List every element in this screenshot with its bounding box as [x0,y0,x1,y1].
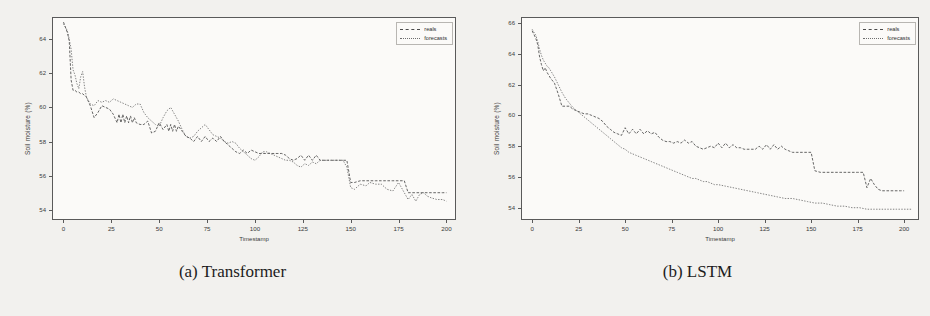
y-tick-mark [518,115,521,116]
x-tick-mark [351,220,352,223]
x-tick-mark [579,220,580,223]
x-tick-mark [765,220,766,223]
plot-area-transformer: Soil moisture (%) Timestamp 545658606264… [0,0,465,255]
x-tick-label: 175 [386,225,412,232]
x-tick-label: 0 [50,225,76,232]
legend-item-reals: reals [863,26,910,32]
y-tick-label: 62 [495,82,515,88]
series-line-reals [63,22,446,193]
y-tick-mark [518,208,521,209]
y-tick-label: 66 [495,20,515,26]
x-tick-label: 100 [705,225,731,232]
y-tick-mark [49,210,52,211]
x-tick-label: 200 [433,225,459,232]
x-tick-mark [207,220,208,223]
chart-curves-transformer [0,0,465,255]
x-tick-mark [159,220,160,223]
x-axis-label-transformer: Timestamp [52,236,456,242]
panel-transformer: Soil moisture (%) Timestamp 545658606264… [0,0,465,316]
legend-line-reals-icon [400,29,420,30]
panel-lstm: Soil moisture (%) Timestamp 545658606264… [465,0,930,316]
x-tick-label: 75 [659,225,685,232]
x-tick-label: 125 [290,225,316,232]
x-tick-label: 200 [891,225,917,232]
y-tick-label: 62 [26,70,46,76]
y-tick-mark [518,146,521,147]
x-tick-label: 150 [798,225,824,232]
legend-label-reals: reals [424,26,436,32]
x-tick-mark [718,220,719,223]
series-line-forecasts [532,29,911,209]
y-tick-label: 56 [495,174,515,180]
legend-label-reals: reals [887,26,899,32]
x-tick-mark [532,220,533,223]
x-tick-label: 25 [98,225,124,232]
x-tick-mark [446,220,447,223]
y-tick-label: 64 [26,36,46,42]
x-tick-label: 25 [566,225,592,232]
y-tick-mark [518,177,521,178]
legend-line-forecasts-icon [400,38,420,39]
plot-area-lstm: Soil moisture (%) Timestamp 545658606264… [465,0,930,255]
x-tick-mark [303,220,304,223]
x-tick-label: 175 [845,225,871,232]
x-tick-label: 75 [194,225,220,232]
x-tick-label: 125 [752,225,778,232]
y-tick-label: 54 [26,207,46,213]
legend-item-reals: reals [400,26,447,32]
x-tick-label: 50 [146,225,172,232]
x-axis-label-lstm: Timestamp [521,236,919,242]
legend-item-forecasts: forecasts [400,35,447,41]
y-tick-label: 56 [26,173,46,179]
x-tick-mark [63,220,64,223]
caption-transformer: (a) Transformer [0,262,465,282]
y-tick-label: 60 [26,104,46,110]
x-tick-mark [811,220,812,223]
y-tick-label: 58 [495,143,515,149]
x-tick-mark [625,220,626,223]
x-tick-mark [904,220,905,223]
y-tick-mark [518,85,521,86]
legend-lstm: reals forecasts [859,22,916,45]
x-tick-mark [858,220,859,223]
x-tick-mark [672,220,673,223]
y-tick-label: 60 [495,112,515,118]
series-line-reals [532,31,904,191]
x-tick-label: 0 [519,225,545,232]
y-tick-label: 58 [26,139,46,145]
y-tick-mark [49,176,52,177]
x-tick-label: 100 [242,225,268,232]
x-tick-mark [399,220,400,223]
x-tick-label: 150 [338,225,364,232]
legend-label-forecasts: forecasts [887,35,910,41]
y-tick-mark [49,73,52,74]
y-tick-mark [49,142,52,143]
legend-line-reals-icon [863,29,883,30]
legend-line-forecasts-icon [863,38,883,39]
legend-label-forecasts: forecasts [424,35,447,41]
y-tick-label: 54 [495,205,515,211]
legend-transformer: reals forecasts [396,22,453,45]
y-tick-mark [49,39,52,40]
figure-container: Soil moisture (%) Timestamp 545658606264… [0,0,930,316]
x-tick-mark [255,220,256,223]
x-tick-label: 50 [612,225,638,232]
y-tick-mark [518,23,521,24]
legend-item-forecasts: forecasts [863,35,910,41]
y-tick-label: 64 [495,51,515,57]
x-tick-mark [111,220,112,223]
caption-lstm: (b) LSTM [465,262,930,282]
y-tick-mark [518,54,521,55]
series-line-forecasts [63,24,446,201]
y-tick-mark [49,107,52,108]
